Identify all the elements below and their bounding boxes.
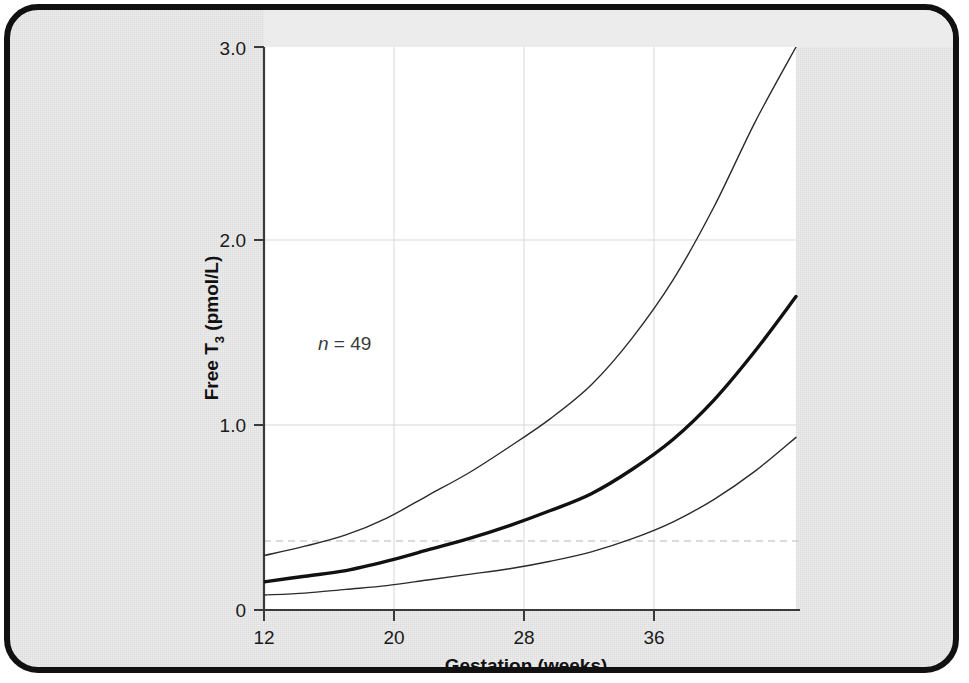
chart-svg: 0 1.0 2.0 3.0 12 20 28 36 Gestation (wee… [10, 10, 959, 673]
sample-size-value: = 49 [329, 333, 372, 354]
y-tick-label-1: 1.0 [220, 415, 246, 436]
y-axis-title: Free T3 (pmol/L) [201, 256, 227, 400]
y-tick-label-3: 3.0 [220, 38, 246, 59]
x-tick-label-20: 20 [383, 627, 404, 648]
y-tick-marks [254, 47, 264, 610]
sample-size-annotation: n = 49 [318, 333, 371, 354]
y-axis-title-units: (pmol/L) [201, 256, 222, 336]
top-mask [264, 10, 959, 47]
plot-panel [264, 47, 796, 610]
y-axis-title-subscript: 3 [212, 336, 227, 343]
svg-text:Free T3 (pmol/L): Free T3 (pmol/L) [201, 256, 227, 400]
y-tick-label-2: 2.0 [220, 230, 246, 251]
x-axis-title: Gestation (weeks) [445, 655, 608, 673]
figure-card: 0 1.0 2.0 3.0 12 20 28 36 Gestation (wee… [4, 4, 959, 673]
x-tick-marks [264, 610, 654, 621]
sample-size-symbol: n [318, 333, 329, 354]
chart-plot-root: 0 1.0 2.0 3.0 12 20 28 36 Gestation (wee… [10, 10, 959, 673]
x-tick-label-36: 36 [643, 627, 664, 648]
y-axis-title-main: Free T [201, 343, 222, 400]
y-tick-label-0: 0 [235, 600, 246, 621]
x-tick-label-12: 12 [253, 627, 274, 648]
x-tick-label-28: 28 [513, 627, 534, 648]
